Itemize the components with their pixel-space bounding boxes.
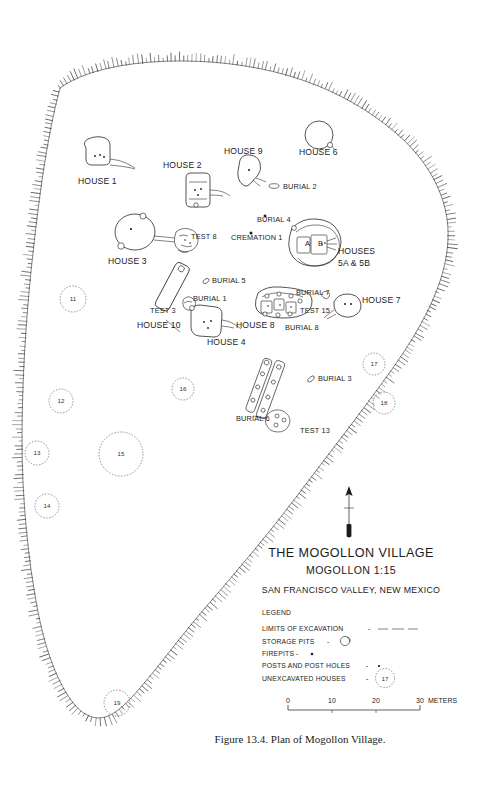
unexcavated-house-12: 12 (49, 389, 73, 413)
unexcavated-house-18-number: 18 (381, 399, 388, 406)
post-hole-dot-icon (378, 665, 380, 667)
map-label-house-8: HOUSE 8 (236, 320, 275, 330)
legend-item-storage-pits: STORAGE PITS - (262, 636, 350, 645)
house-1-feature (84, 137, 135, 169)
map-label-test-15: TEST 15 (300, 306, 330, 315)
map-label-burial-1: BURIAL 1 (193, 294, 227, 303)
legend-separator-0: - (368, 625, 370, 632)
unexcavated-house-17-number: 17 (371, 360, 378, 367)
map-label-house-9: HOUSE 9 (224, 146, 263, 156)
north-arrow (344, 486, 354, 538)
legend-item-limits-of-excavation: LIMITS OF EXCAVATION - (262, 625, 418, 632)
title-block: THE MOGOLLON VILLAGE MOGOLLON 1:15 SAN F… (262, 546, 440, 595)
burial-2-feature (269, 184, 279, 189)
scale-tick-20: 20 (372, 697, 380, 704)
map-title: THE MOGOLLON VILLAGE (268, 546, 433, 560)
map-labels-group: HOUSE 1HOUSE 2HOUSE 9HOUSE 6BURIAL 2BURI… (78, 146, 401, 435)
map-label-house-1: HOUSE 1 (78, 176, 117, 186)
map-label-burial-8: BURIAL 8 (285, 323, 319, 332)
unexcavated-house-17: 17 (363, 353, 385, 375)
figure-caption: Figure 13.4. Plan of Mogollon Village. (215, 733, 386, 745)
scale-tick-30: 30 (416, 697, 424, 704)
house-4-feature (190, 305, 241, 337)
unexcavated-house-14-number: 14 (44, 502, 51, 509)
map-label-burial-7: BURIAL 7 (296, 288, 330, 297)
map-label-houses-5a-5b-2: 5A & 5B (338, 258, 370, 268)
map-label-burial-2: BURIAL 2 (283, 182, 317, 191)
legend-unexcavated-house-number: 17 (382, 675, 389, 682)
unexcavated-house-11: 11 (60, 286, 86, 312)
scale-bar: 0 10 20 30 METERS (286, 697, 457, 713)
unexcavated-house-11-number: 11 (70, 295, 77, 302)
map-label-house-10: HOUSE 10 (137, 320, 181, 330)
legend-separator-4: - (366, 675, 368, 682)
house-2-feature (186, 173, 230, 207)
map-label-houses-5a-5b-1: HOUSES (338, 246, 375, 256)
legend-separator-2: - (296, 650, 298, 657)
map-label-test-3: TEST 3 (150, 306, 176, 315)
legend-label-storage-pits: STORAGE PITS (262, 638, 315, 645)
houses-5a-5b-feature (289, 219, 341, 266)
map-label-burial-5: BURIAL 5 (212, 276, 246, 285)
unexcavated-house-15: 15 (99, 432, 143, 476)
unexcavated-house-16: 16 (172, 378, 194, 400)
map-label-house-7: HOUSE 7 (362, 295, 401, 305)
house-9-feature (238, 155, 266, 186)
map-label-burial-6: BURIAL 6 (236, 414, 270, 423)
map-label-house-6: HOUSE 6 (299, 147, 338, 157)
legend-item-unexcavated-houses: UNEXCAVATED HOUSES - 17 (262, 669, 395, 688)
legend: LEGEND LIMITS OF EXCAVATION - STORAGE PI… (262, 609, 418, 688)
map-label-test-13: TEST 13 (300, 426, 330, 435)
dashed-circle-icon: 17 (376, 669, 395, 688)
legend-label-limits-of-excavation: LIMITS OF EXCAVATION (262, 625, 343, 632)
map-label-house-2: HOUSE 2 (163, 160, 202, 170)
map-label-house-3: HOUSE 3 (108, 256, 147, 266)
unexcavated-house-16-number: 16 (180, 385, 187, 392)
scale-tick-10: 10 (328, 697, 336, 704)
scale-unit-label: METERS (428, 697, 458, 704)
legend-separator-1: - (327, 638, 329, 645)
map-label-burial-4: BURIAL 4 (257, 215, 291, 224)
legend-label-posts-and-post-holes: POSTS AND POST HOLES (262, 662, 350, 669)
map-label-test-8: TEST 8 (191, 232, 217, 241)
unexcavated-house-13: 13 (25, 441, 49, 465)
map-label-house-5b-inner: B (318, 239, 323, 248)
unexcavated-house-13-number: 13 (34, 449, 41, 456)
burial-5-feature (202, 277, 210, 284)
scale-tick-0: 0 (286, 697, 290, 704)
map-subtitle: MOGOLLON 1:15 (306, 564, 396, 576)
legend-item-firepits: FIREPITS - (262, 650, 313, 657)
house-6-feature (305, 121, 334, 149)
storage-pit-oval-icon (340, 636, 350, 645)
map-label-cremation-1: CREMATION 1 (231, 233, 283, 242)
legend-label-unexcavated-houses: UNEXCAVATED HOUSES (262, 675, 346, 682)
unexcavated-house-14: 14 (35, 494, 59, 518)
legend-heading: LEGEND (262, 609, 291, 616)
unexcavated-houses-group: 111213141516171819 (25, 286, 395, 716)
unexcavated-house-18: 18 (373, 392, 395, 414)
unexcavated-house-19-number: 19 (114, 699, 121, 706)
firepit-dot-icon (311, 653, 314, 656)
legend-separator-3: - (366, 662, 368, 669)
figure-mogollon-village-plan: 111213141516171819 HOUSE 1HOUSE 2HOUSE 9… (0, 0, 485, 787)
map-label-house-4: HOUSE 4 (207, 337, 246, 347)
unexcavated-house-15-number: 15 (118, 450, 125, 457)
legend-label-firepits: FIREPITS (262, 650, 294, 657)
map-label-burial-3: BURIAL 3 (318, 374, 352, 383)
burial-3-feature (307, 375, 316, 383)
unexcavated-house-12-number: 12 (58, 397, 65, 404)
map-label-house-5a-inner: A (305, 239, 310, 248)
map-location: SAN FRANCISCO VALLEY, NEW MEXICO (262, 585, 440, 595)
legend-item-posts-and-post-holes: POSTS AND POST HOLES - (262, 662, 380, 669)
